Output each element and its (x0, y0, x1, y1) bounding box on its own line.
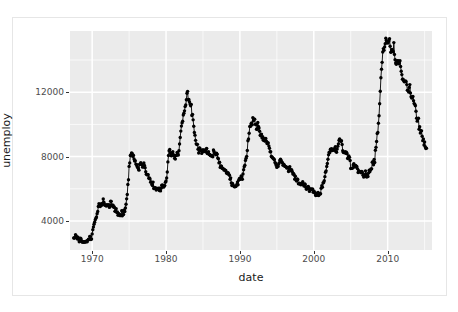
x-tick-label: 1980 (155, 254, 178, 265)
y-tick-label: 4000 (41, 216, 64, 226)
y-tick-mark (66, 221, 69, 222)
plot-area-svg (70, 31, 432, 250)
x-tick-mark (92, 251, 93, 254)
unemploy-points (72, 37, 428, 244)
x-tick-label: 2010 (376, 254, 399, 265)
y-axis-title: unemploy (0, 31, 14, 250)
y-tick-label: 8000 (41, 152, 64, 162)
x-tick-label: 1990 (228, 254, 251, 265)
chart-figure: 4000800012000 unemploy 19701980199020002… (0, 0, 458, 312)
unemploy-line (74, 38, 427, 242)
x-axis-title: date (70, 271, 432, 284)
plot-panel (70, 31, 432, 250)
y-axis-tick-labels: 4000800012000 (34, 31, 64, 250)
y-tick-label: 12000 (35, 87, 64, 97)
x-tick-mark (240, 251, 241, 254)
y-tick-mark (66, 157, 69, 158)
x-tick-label: 2000 (302, 254, 325, 265)
y-axis-title-text: unemploy (0, 31, 13, 250)
x-tick-mark (314, 251, 315, 254)
y-tick-mark (66, 92, 69, 93)
x-axis-tick-labels: 19701980199020002010 (70, 254, 432, 268)
x-tick-label: 1970 (81, 254, 104, 265)
x-tick-mark (166, 251, 167, 254)
x-tick-mark (388, 251, 389, 254)
